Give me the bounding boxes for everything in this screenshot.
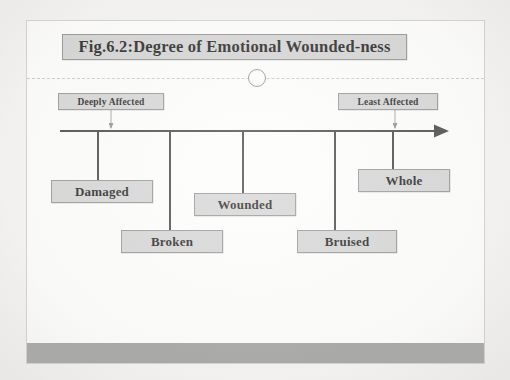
slide-canvas: Fig.6.2:Degree of Emotional Wounded-ness…: [26, 20, 485, 364]
term-box-bruised: Bruised: [297, 230, 397, 253]
slide-footer-band: [27, 343, 484, 363]
figure-title: Fig.6.2:Degree of Emotional Wounded-ness: [62, 34, 407, 60]
term-box-broken: Broken: [121, 230, 223, 253]
scanned-page: Fig.6.2:Degree of Emotional Wounded-ness…: [0, 0, 510, 380]
term-box-whole: Whole: [358, 169, 450, 192]
term-box-wounded: Wounded: [194, 193, 296, 216]
endpoint-label-deeply-affected: Deeply Affected: [58, 93, 164, 110]
term-box-damaged: Damaged: [51, 180, 153, 203]
endpoint-label-least-affected: Least Affected: [338, 93, 438, 110]
